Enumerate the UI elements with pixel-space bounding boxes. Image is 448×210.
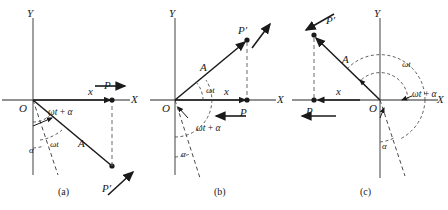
- y-axis-label: Y: [169, 8, 175, 19]
- panel-a: Y X O x P P′ A ωt + α ωt α (a): [0, 0, 150, 210]
- origin-label: O: [369, 103, 377, 114]
- y-axis-label: Y: [374, 8, 380, 19]
- origin-label: O: [162, 103, 170, 114]
- point-p-label: P: [240, 107, 247, 118]
- panel-caption-c: (c): [360, 186, 371, 197]
- angle-label-alpha: α: [181, 150, 186, 159]
- x-axis-label: X: [277, 94, 284, 105]
- point-p-label: P: [306, 106, 313, 117]
- projection-point-marker: [311, 97, 316, 102]
- displacement-label: x: [88, 86, 93, 97]
- angle-label-alpha: α: [382, 142, 387, 151]
- projection-point-marker: [244, 97, 249, 102]
- x-axis-label: X: [437, 94, 444, 105]
- angle-label-omega-t: ωt: [402, 60, 411, 69]
- panel-b: Y X O x P P′ A ωt ωt + α α (b): [148, 0, 298, 210]
- point-p-prime-label: P′: [238, 25, 247, 36]
- tangential-velocity-arrow: [252, 24, 270, 48]
- alpha-reference-line: [175, 100, 200, 178]
- rotating-point-marker: [311, 32, 316, 37]
- angle-indicator-arrow-outer: [360, 80, 368, 88]
- panel-caption-b: (b): [214, 186, 226, 197]
- panel-caption-a: (a): [58, 186, 69, 197]
- angle-label-omega-t: ωt: [206, 86, 215, 95]
- amplitude-vector: [316, 38, 380, 100]
- tangential-velocity-arrow: [108, 172, 133, 195]
- point-p-prime-label: P′: [326, 15, 335, 26]
- angle-label-alpha: α: [29, 146, 34, 155]
- panel-b-drawing: [148, 0, 298, 210]
- angle-label-omega-t-plus-alpha: ωt + α: [48, 108, 73, 118]
- angle-label-omega-t-plus-alpha: ωt + α: [412, 90, 437, 100]
- y-axis-label: Y: [27, 8, 33, 19]
- angle-indicator-arrow: [178, 107, 188, 118]
- amplitude-label: A: [200, 62, 207, 73]
- point-p-prime-label: P′: [102, 183, 111, 194]
- projection-point-marker: [109, 97, 114, 102]
- amplitude-label: A: [78, 138, 85, 149]
- angle-arc-omega-t-plus-alpha: [360, 73, 408, 100]
- displacement-label: x: [224, 86, 229, 97]
- origin-label: O: [19, 103, 27, 114]
- angle-arc-alpha: [33, 146, 44, 148]
- x-axis-label: X: [131, 94, 138, 105]
- angle-arc-omega-t: [196, 82, 203, 100]
- panel-c: Y X O x P P′ A ωt ωt + α α (c): [290, 0, 448, 210]
- rotating-point-marker: [244, 37, 249, 42]
- phasor-figure: Y X O x P P′ A ωt + α ωt α (a): [0, 0, 448, 210]
- angle-label-omega-t: ωt: [50, 140, 59, 149]
- displacement-label: x: [336, 86, 341, 97]
- angle-arc-omega-t-continuation: [400, 100, 425, 139]
- angle-label-omega-t-plus-alpha: ωt + α: [196, 124, 221, 134]
- point-p-label: P: [104, 80, 111, 91]
- amplitude-label: A: [342, 54, 349, 65]
